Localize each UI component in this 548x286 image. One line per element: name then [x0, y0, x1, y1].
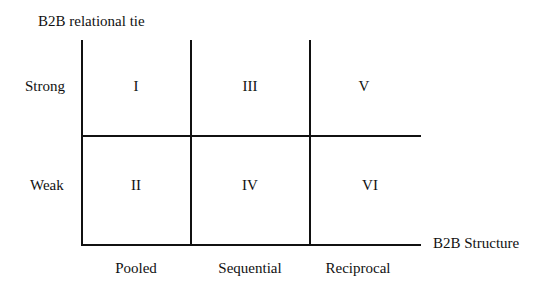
cell-strong-sequential: III — [243, 79, 258, 94]
column-label-sequential: Sequential — [218, 261, 281, 276]
column-label-pooled: Pooled — [115, 261, 157, 276]
x-axis-line — [81, 244, 421, 246]
row-label-strong: Strong — [25, 79, 65, 94]
cell-weak-sequential: IV — [242, 178, 258, 193]
row-label-weak: Weak — [30, 178, 64, 193]
divider-horizontal — [81, 135, 421, 137]
cell-weak-reciprocal: VI — [362, 178, 378, 193]
column-label-reciprocal: Reciprocal — [326, 261, 391, 276]
cell-weak-pooled: II — [131, 178, 141, 193]
divider-vertical-2 — [309, 40, 311, 245]
x-axis-title: B2B Structure — [433, 236, 519, 251]
y-axis-line — [81, 40, 83, 245]
cell-strong-pooled: I — [134, 79, 139, 94]
divider-vertical-1 — [190, 40, 192, 245]
y-axis-title: B2B relational tie — [38, 14, 145, 29]
cell-strong-reciprocal: V — [359, 79, 370, 94]
